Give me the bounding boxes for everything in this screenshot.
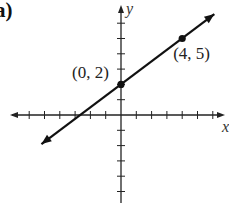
point-label: (0, 2) <box>72 63 109 82</box>
x-axis-label: x <box>221 118 229 135</box>
y-axis-up-arrow-icon <box>118 5 124 13</box>
graph-line <box>41 14 214 144</box>
data-point <box>179 35 186 42</box>
point-label: (4, 5) <box>173 44 210 63</box>
x-axis-left-arrow-icon <box>10 112 18 118</box>
y-axis-label: y <box>124 0 134 18</box>
coordinate-plane: xy(0, 2)(4, 5) <box>0 0 229 203</box>
data-point <box>117 81 124 88</box>
